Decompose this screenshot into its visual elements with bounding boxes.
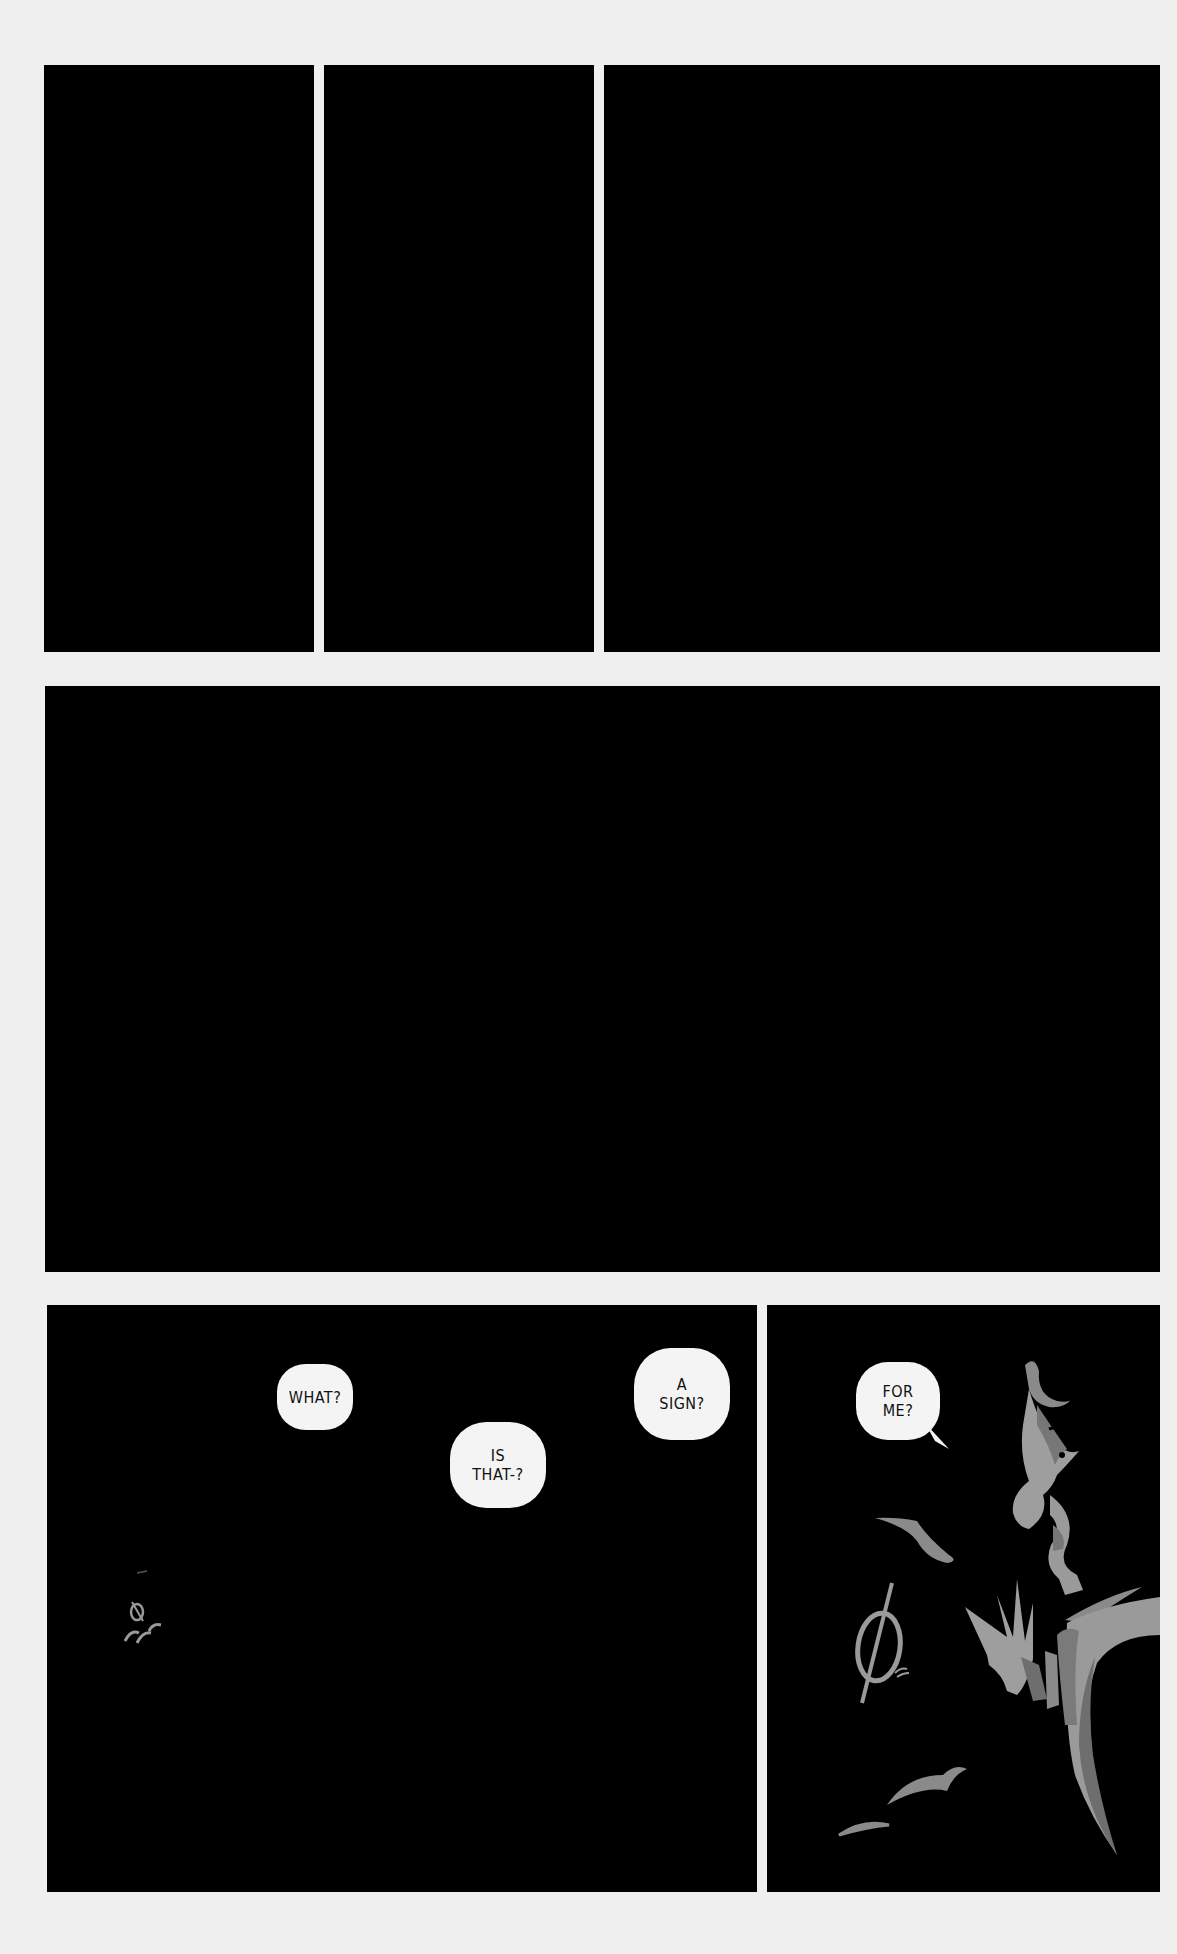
speech-text: A SIGN? <box>659 1375 704 1413</box>
figure-illustration <box>767 1305 1160 1892</box>
speech-bubble-a-sign: A SIGN? <box>634 1348 730 1440</box>
panel-1b <box>324 65 594 652</box>
panel-1c <box>604 65 1160 652</box>
distant-symbol-icon <box>117 1565 177 1645</box>
speech-bubble-is-that: IS THAT-? <box>450 1422 546 1508</box>
panel-2-wide <box>45 686 1160 1272</box>
speech-text: IS THAT-? <box>472 1446 523 1484</box>
panel-3-right: FOR ME? <box>767 1305 1160 1892</box>
speech-text: WHAT? <box>289 1388 342 1407</box>
speech-bubble-what: WHAT? <box>277 1364 353 1430</box>
panel-3-left: WHAT? IS THAT-? A SIGN? <box>47 1305 757 1892</box>
panel-1a <box>44 65 314 652</box>
